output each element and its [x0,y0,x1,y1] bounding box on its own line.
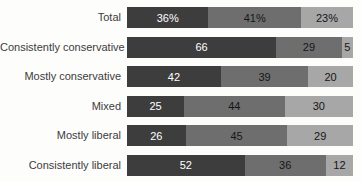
value-label: 36% [157,12,179,24]
value-label: 66 [195,41,207,53]
bar-segment: 25 [127,96,184,117]
value-label: 36 [279,159,291,171]
stacked-bar: 66 29 5 [127,37,353,58]
bar-segment: 52 [127,155,245,176]
stacked-bar: 25 44 30 [127,96,353,117]
value-label: 26 [150,130,162,142]
stacked-bar: 52 36 12 [127,155,353,176]
category-label: Consistently conservative [0,37,127,58]
value-label: 44 [228,100,240,112]
category-label: Mixed [0,96,127,117]
value-label: 25 [149,100,161,112]
chart-row-mostly-conservative: Mostly conservative 42 39 20 [0,66,361,87]
value-label: 23% [316,12,338,24]
stacked-bar: 36% 41% 23% [127,7,353,28]
bar-segment: 39 [221,66,308,87]
chart-row-mostly-liberal: Mostly liberal 26 45 29 [0,125,361,146]
bar-segment: 41% [208,7,301,28]
chart-row-mixed: Mixed 25 44 30 [0,96,361,117]
chart-row-total: Total 36% 41% 23% [0,7,361,28]
bar-segment: 29 [287,125,353,146]
category-label: Mostly conservative [0,66,127,87]
stacked-bar-chart: Total 36% 41% 23% Consistently conservat… [0,0,361,176]
stacked-bar: 26 45 29 [127,125,353,146]
category-label: Mostly liberal [0,125,127,146]
bar-segment: 44 [184,96,284,117]
value-label: 45 [230,130,242,142]
chart-row-consistently-conservative: Consistently conservative 66 29 5 [0,37,361,58]
value-label: 5 [344,41,350,53]
bar-segment: 5 [342,37,353,58]
bar-segment: 29 [276,37,342,58]
bar-segment: 23% [301,7,353,28]
bar-segment: 42 [127,66,221,87]
value-label: 29 [303,41,315,53]
bar-segment: 36 [245,155,326,176]
bar-segment: 26 [127,125,186,146]
category-label: Total [0,7,127,28]
value-label: 52 [180,159,192,171]
value-label: 30 [313,100,325,112]
bar-segment: 36% [127,7,208,28]
value-label: 39 [258,71,270,83]
value-label: 42 [168,71,180,83]
bar-segment: 66 [127,37,276,58]
stacked-bar: 42 39 20 [127,66,353,87]
chart-row-consistently-liberal: Consistently liberal 52 36 12 [0,155,361,176]
bar-segment: 20 [308,66,353,87]
bar-segment: 30 [285,96,353,117]
category-label: Consistently liberal [0,155,127,176]
value-label: 41% [244,12,266,24]
bar-segment: 12 [326,155,353,176]
value-label: 20 [325,71,337,83]
bar-segment: 45 [186,125,288,146]
value-label: 12 [333,159,345,171]
value-label: 29 [314,130,326,142]
